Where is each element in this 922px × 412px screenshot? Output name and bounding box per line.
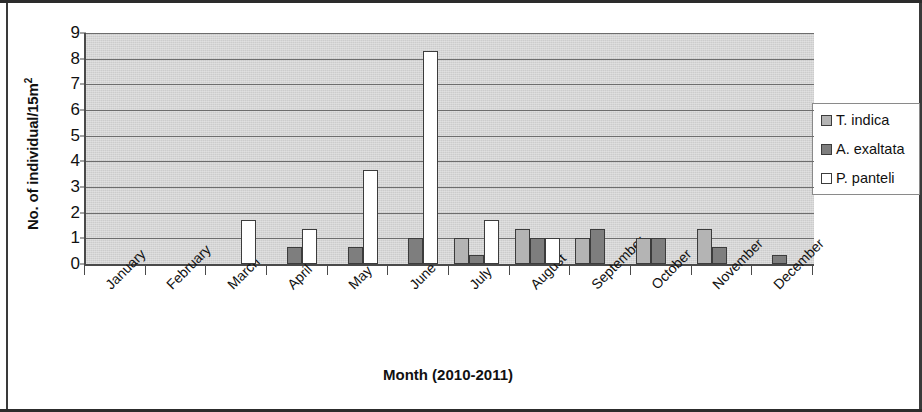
y-axis-tick-label: 9 xyxy=(71,23,80,43)
x-axis-tick-mark xyxy=(812,266,813,275)
bar-group xyxy=(207,33,268,264)
y-axis-title-superscript: 2 xyxy=(23,78,34,83)
y-axis-tick-label: 2 xyxy=(71,203,80,223)
bar xyxy=(241,220,256,264)
x-axis-tick-mark xyxy=(266,266,267,275)
bar-group xyxy=(753,33,814,264)
bar xyxy=(363,170,378,264)
bar-chart: No. of individual/15m2 0123456789 Januar… xyxy=(0,0,922,412)
x-axis-tick-mark xyxy=(145,266,146,275)
y-axis-tick-label: 4 xyxy=(71,151,80,171)
legend-swatch-icon xyxy=(821,144,832,155)
bar-group xyxy=(147,33,208,264)
legend-swatch-icon xyxy=(821,173,832,184)
bar xyxy=(408,238,423,264)
x-axis-tick-mark xyxy=(448,266,449,275)
bar xyxy=(772,255,787,264)
y-axis-tick-label: 5 xyxy=(71,126,80,146)
x-axis-tick-mark xyxy=(630,266,631,275)
legend-item[interactable]: P. panteli xyxy=(821,170,915,186)
legend-item-label: P. panteli xyxy=(836,170,895,186)
bar-group xyxy=(268,33,329,264)
y-axis-tick-label: 0 xyxy=(71,254,80,274)
x-axis-tick-mark xyxy=(327,266,328,275)
x-axis-tick-mark xyxy=(205,266,206,275)
bar xyxy=(651,238,666,264)
x-axis-tick-mark xyxy=(751,266,752,275)
x-axis-tick-mark xyxy=(691,266,692,275)
bar xyxy=(287,247,302,264)
bar xyxy=(712,247,727,264)
bar xyxy=(545,238,560,264)
bar xyxy=(348,247,363,264)
bar xyxy=(423,51,438,264)
bar-group xyxy=(632,33,693,264)
bar-group xyxy=(329,33,390,264)
y-axis-tick-label: 1 xyxy=(71,228,80,248)
chart-screenshot: No. of individual/15m2 0123456789 Januar… xyxy=(0,0,922,412)
bar-group xyxy=(389,33,450,264)
bar-groups xyxy=(86,33,814,264)
plot-area: 0123456789 xyxy=(84,33,814,266)
legend-item-label: T. indica xyxy=(836,112,889,128)
x-axis-labels: JanuaryFebruaryMarchAprilMayJuneJulyAugu… xyxy=(84,275,812,355)
x-axis-tick-mark xyxy=(569,266,570,275)
bar xyxy=(302,229,317,264)
x-axis-tick-mark xyxy=(84,266,85,275)
bar xyxy=(590,229,605,264)
bar-group xyxy=(693,33,754,264)
bar xyxy=(515,229,530,264)
x-axis-tick-mark xyxy=(509,266,510,275)
legend-item[interactable]: A. exaltata xyxy=(821,141,915,157)
bar xyxy=(484,220,499,264)
bar xyxy=(636,238,651,264)
bar-group xyxy=(450,33,511,264)
bar xyxy=(575,238,590,264)
y-axis-tick-label: 7 xyxy=(71,74,80,94)
bar xyxy=(530,238,545,264)
bar-group xyxy=(86,33,147,264)
bar xyxy=(454,238,469,264)
bar xyxy=(469,255,484,264)
x-axis-tick-mark xyxy=(387,266,388,275)
y-axis-tick-label: 8 xyxy=(71,49,80,69)
bar-group xyxy=(511,33,572,264)
y-axis-title: No. of individual/15m2 xyxy=(23,54,41,254)
bar xyxy=(697,229,712,264)
chart-legend: T. indicaA. exaltataP. panteli xyxy=(812,103,920,195)
bar-group xyxy=(571,33,632,264)
legend-item[interactable]: T. indica xyxy=(821,112,915,128)
y-axis-tick-label: 6 xyxy=(71,100,80,120)
x-axis-title: Month (2010-2011) xyxy=(84,366,812,383)
y-axis-tick-label: 3 xyxy=(71,177,80,197)
legend-item-label: A. exaltata xyxy=(836,141,905,157)
legend-swatch-icon xyxy=(821,115,832,126)
y-axis-title-text: No. of individual/15m xyxy=(24,83,41,230)
